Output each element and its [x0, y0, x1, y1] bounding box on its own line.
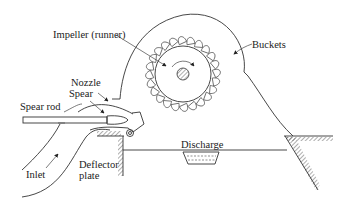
- label-buckets: Buckets: [252, 39, 286, 50]
- label-spear-rod: Spear rod: [20, 101, 61, 112]
- bucket: [179, 103, 189, 112]
- label-deflector-line2: plate: [79, 170, 100, 181]
- bucket: [149, 87, 159, 97]
- label-deflector-line1: Deflector: [79, 159, 119, 170]
- label-inlet: Inlet: [26, 169, 45, 180]
- spear-rod: [23, 117, 107, 123]
- bucket: [207, 51, 217, 61]
- label-impeller: Impeller (runner): [53, 29, 126, 41]
- bucket: [212, 68, 221, 78]
- bucket: [209, 86, 216, 95]
- bucket: [177, 35, 187, 44]
- spear: [107, 116, 128, 125]
- runner: [144, 35, 222, 113]
- bucket: [212, 77, 220, 86]
- label-nozzle: Nozzle: [71, 77, 101, 88]
- bucket: [171, 103, 180, 111]
- label-discharge: Discharge: [181, 139, 224, 150]
- leader-lines: [64, 35, 252, 113]
- bucket: [195, 40, 204, 47]
- ground-right: [284, 136, 333, 190]
- bucket: [186, 37, 195, 45]
- bucket: [144, 70, 153, 80]
- label-spear: Spear: [69, 88, 93, 99]
- pelton-wheel-diagram: Impeller (runner) Buckets Nozzle Spear S…: [0, 0, 351, 212]
- bucket: [146, 62, 154, 71]
- bucket: [160, 40, 170, 50]
- bucket: [196, 98, 206, 108]
- tailrace: [123, 150, 287, 164]
- casing: [112, 14, 293, 136]
- bucket: [163, 100, 172, 107]
